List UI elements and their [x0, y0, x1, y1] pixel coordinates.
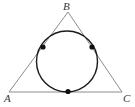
vertex-label-b: B	[63, 1, 70, 12]
tangent-point-ac-dot	[65, 89, 70, 94]
geometry-figure: B A C	[0, 0, 135, 107]
geometry-canvas	[0, 0, 135, 107]
vertex-label-a: A	[4, 93, 11, 104]
tangent-point-bc-dot	[89, 44, 94, 49]
vertex-label-c: C	[123, 93, 130, 104]
tangent-point-ab-dot	[40, 44, 45, 49]
